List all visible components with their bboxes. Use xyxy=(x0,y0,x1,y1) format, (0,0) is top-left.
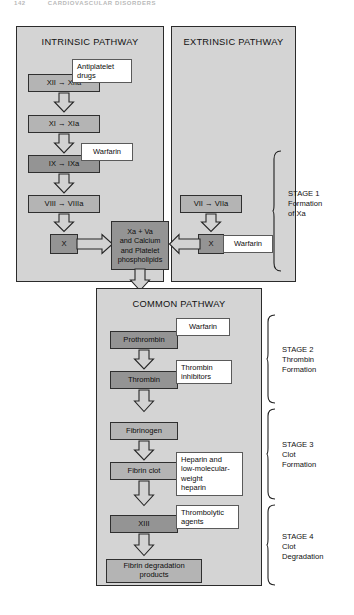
thrombolytic-line-2: agents xyxy=(181,517,234,526)
node-fibrin-degradation-products: Fibrin degradation products xyxy=(106,559,202,583)
node-factor-xi: XI → XIa xyxy=(28,115,100,133)
xa-complex-line-1: Xa + Va xyxy=(127,227,153,236)
arrow-fibrin-clot-to-xiii xyxy=(134,481,154,506)
panel-title-intrinsic: INTRINSIC PATHWAY xyxy=(17,37,163,47)
stage-label-3: STAGE 3 Clot Formation xyxy=(282,440,316,470)
thrombin-inhibitors-line-1: Thrombin xyxy=(181,363,227,372)
panel-title-common: COMMON PATHWAY xyxy=(97,299,261,309)
arrow-prothrombin-to-thrombin xyxy=(134,350,154,370)
heparin-line-3: weight xyxy=(181,474,238,483)
callout-thrombin-inhibitors: Thrombin inhibitors xyxy=(176,360,232,384)
bracket-stage-3 xyxy=(266,408,278,500)
stage-1-title: STAGE 1 xyxy=(288,189,322,199)
stage-label-1: STAGE 1 Formation of Xa xyxy=(288,189,322,219)
stage-1-line-1: Formation xyxy=(288,199,322,209)
arrow-thrombin-to-fibrinogen xyxy=(134,390,154,412)
node-factor-vii: VII → VIIa xyxy=(180,195,242,213)
arrow-viii-to-x xyxy=(54,214,74,232)
heparin-line-4: heparin xyxy=(181,483,238,492)
bracket-stage-1 xyxy=(272,150,284,272)
xa-complex-line-3: and Platelet xyxy=(121,246,160,255)
node-factor-viii: VIII → VIIIa xyxy=(28,195,100,213)
node-xa-complex: Xa + Va and Calcium and Platelet phospho… xyxy=(111,221,169,270)
node-factor-x-extrinsic: X xyxy=(198,234,224,254)
arrow-x-to-xa-complex-right xyxy=(77,234,113,254)
coagulation-cascade-diagram: 142CARDIOVASCULAR DISORDERS INTRINSIC PA… xyxy=(0,0,354,615)
panel-title-extrinsic: EXTRINSIC PATHWAY xyxy=(172,37,295,47)
stage-3-title: STAGE 3 xyxy=(282,440,316,450)
callout-warfarin-prothrombin: Warfarin xyxy=(176,318,230,336)
stage-2-title: STAGE 2 xyxy=(282,345,316,355)
arrow-xiii-to-fdp xyxy=(134,534,154,556)
stage-3-line-2: Formation xyxy=(282,460,316,470)
arrow-xii-to-xi xyxy=(54,93,74,113)
callout-heparin: Heparin and low-molecular- weight hepari… xyxy=(176,452,243,496)
antiplatelet-line-2: drugs xyxy=(77,71,127,80)
node-thrombin: Thrombin xyxy=(110,371,178,389)
xa-complex-line-2: and Calcium xyxy=(120,236,161,245)
node-factor-xiii: XIII xyxy=(110,515,178,533)
arrow-ix-to-viii xyxy=(54,174,74,194)
arrow-fibrinogen-to-fibrin-clot xyxy=(134,441,154,461)
stage-label-2: STAGE 2 Thrombin Formation xyxy=(282,345,316,375)
heparin-line-2: low-molecular- xyxy=(181,464,238,473)
callout-warfarin-factor-x: Warfarin xyxy=(223,235,273,253)
stage-4-line-1: Clot xyxy=(282,542,323,552)
xa-complex-line-4: phospholipids xyxy=(118,255,163,264)
callout-antiplatelet-drugs: Antiplatelet drugs xyxy=(72,59,132,83)
node-fibrinogen: Fibrinogen xyxy=(110,422,178,440)
page-number: 142 xyxy=(14,0,26,6)
arrow-xi-to-ix xyxy=(54,134,74,154)
arrow-x-to-xa-complex-left xyxy=(169,234,200,254)
thrombolytic-line-1: Thrombolytic xyxy=(181,508,234,517)
stage-4-title: STAGE 4 xyxy=(282,532,323,542)
running-head-title: CARDIOVASCULAR DISORDERS xyxy=(48,0,156,6)
thrombin-inhibitors-line-2: inhibitors xyxy=(181,372,227,381)
stage-2-line-1: Thrombin xyxy=(282,355,316,365)
stage-3-line-1: Clot xyxy=(282,450,316,460)
antiplatelet-line-1: Antiplatelet xyxy=(77,62,127,71)
callout-thrombolytic-agents: Thrombolytic agents xyxy=(176,505,239,529)
node-fibrin-clot: Fibrin clot xyxy=(110,462,178,480)
node-prothrombin: Prothrombin xyxy=(110,331,178,349)
bracket-stage-2 xyxy=(266,314,278,404)
node-factor-x-intrinsic: X xyxy=(50,234,78,254)
callout-warfarin-ix: Warfarin xyxy=(81,143,133,161)
running-head: 142CARDIOVASCULAR DISORDERS xyxy=(14,0,156,6)
stage-2-line-2: Formation xyxy=(282,365,316,375)
stage-label-4: STAGE 4 Clot Degradation xyxy=(282,532,323,562)
heparin-line-1: Heparin and xyxy=(181,455,238,464)
bracket-stage-4 xyxy=(266,504,278,586)
stage-1-line-2: of Xa xyxy=(288,209,322,219)
arrow-vii-to-x xyxy=(201,214,221,232)
stage-4-line-2: Degradation xyxy=(282,552,323,562)
fdp-line-2: products xyxy=(139,571,168,580)
